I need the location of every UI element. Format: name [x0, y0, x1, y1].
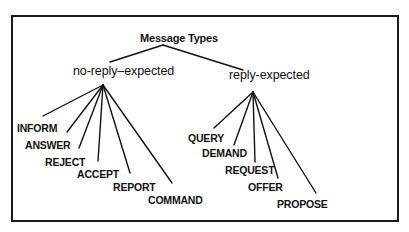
edge-branch-1-to-leaf-4 [253, 92, 316, 193]
edge-root-to-branch-0 [110, 45, 163, 62]
leaf-node-offer: OFFER [248, 182, 283, 193]
leaf-node-command: COMMAND [148, 195, 203, 206]
leaf-node-propose: PROPOSE [277, 199, 328, 210]
edge-branch-1-to-leaf-2 [253, 92, 255, 162]
leaf-node-demand: DEMAND [202, 148, 247, 159]
leaf-node-reject: REJECT [45, 157, 85, 168]
leaf-node-accept: ACCEPT [77, 169, 119, 180]
leaf-node-request: REQUEST [225, 165, 274, 176]
edge-branch-0-to-leaf-4 [103, 85, 130, 173]
leaf-node-report: REPORT [113, 182, 156, 193]
edge-branch-0-to-leaf-0 [43, 85, 103, 116]
branch-node-reply-expected: reply-expected [229, 69, 310, 82]
branch-node-no-reply-expected: no-reply–expected [73, 65, 174, 78]
message-types-tree-diagram: Message Types no-reply–expected reply-ex… [0, 0, 409, 232]
root-node-message-types: Message Types [140, 33, 218, 44]
leaf-node-inform: INFORM [17, 123, 57, 134]
edge-root-to-branch-1 [163, 45, 243, 70]
edge-branch-0-to-leaf-1 [67, 85, 103, 132]
leaf-node-answer: ANSWER [25, 140, 70, 151]
leaf-node-query: QUERY [188, 133, 224, 144]
